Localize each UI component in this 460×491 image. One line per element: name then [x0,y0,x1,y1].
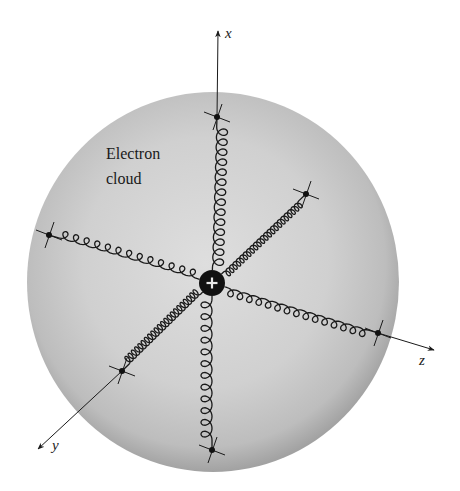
electron-cloud-label-line2: cloud [106,170,142,187]
x-axis-label: x [224,25,232,41]
z-axis-label: z [418,352,425,368]
diagram-canvas: Electron cloud x z y [0,0,460,491]
atom-spring-model: Electron cloud x z y [0,0,460,491]
nucleus [199,270,225,296]
y-axis-label: y [50,437,59,453]
electron-cloud-label-line1: Electron [106,145,160,162]
